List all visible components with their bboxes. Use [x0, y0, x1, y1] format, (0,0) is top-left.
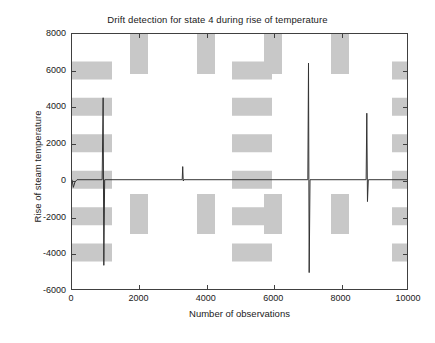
y-tick-label: -6000 [4, 285, 66, 295]
series-line [72, 63, 407, 272]
x-tick-mark [207, 285, 208, 289]
x-tick-label: 10000 [395, 293, 420, 303]
x-tick-mark [342, 285, 343, 289]
x-axis-tick-labels: 0200040006000800010000 [71, 293, 408, 307]
x-tick-label: 8000 [331, 293, 351, 303]
y-tick-mark [72, 254, 76, 255]
y-tick-mark-right [403, 144, 407, 145]
data-series [72, 63, 407, 272]
figure-canvas: Drift detection for state 4 during rise … [0, 0, 435, 343]
y-tick-label: 8000 [4, 28, 66, 38]
x-tick-mark-top [274, 34, 275, 38]
x-axis-label: Number of observations [71, 308, 408, 319]
x-tick-mark-top [139, 34, 140, 38]
y-tick-mark-right [403, 254, 407, 255]
y-tick-mark-right [403, 71, 407, 72]
y-tick-mark [72, 71, 76, 72]
grid-lines [72, 34, 407, 289]
x-tick-label: 4000 [196, 293, 216, 303]
y-tick-mark [72, 181, 76, 182]
chart-title: Drift detection for state 4 during rise … [0, 14, 435, 25]
x-tick-label: 0 [68, 293, 73, 303]
y-tick-mark-right [403, 181, 407, 182]
y-axis-label: Rise of steam temperature [32, 67, 43, 267]
y-tick-mark-right [403, 218, 407, 219]
y-tick-mark [72, 107, 76, 108]
plot-svg [72, 34, 407, 289]
x-tick-label: 2000 [128, 293, 148, 303]
plot-area [71, 33, 408, 290]
x-tick-mark-top [207, 34, 208, 38]
x-tick-mark [139, 285, 140, 289]
x-tick-mark [274, 285, 275, 289]
y-tick-mark-right [403, 107, 407, 108]
y-tick-mark [72, 218, 76, 219]
y-tick-mark [72, 144, 76, 145]
x-tick-label: 6000 [263, 293, 283, 303]
x-tick-mark-top [342, 34, 343, 38]
